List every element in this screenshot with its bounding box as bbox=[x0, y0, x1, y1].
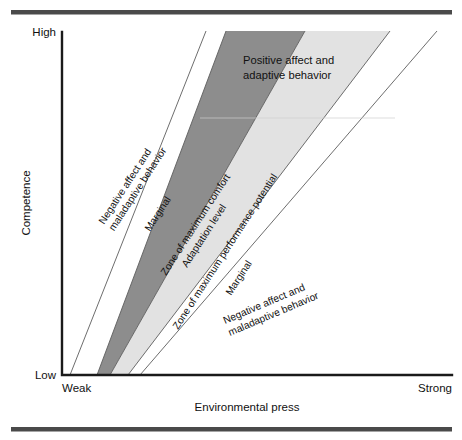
x-axis-weak-label: Weak bbox=[62, 382, 91, 394]
label-positive-affect-line2: adaptive behavior bbox=[243, 69, 332, 81]
bottom-rule bbox=[11, 427, 452, 432]
y-axis-high-label: High bbox=[32, 26, 56, 38]
y-axis-title: Competence bbox=[20, 170, 32, 235]
x-axis-strong-label: Strong bbox=[418, 382, 452, 394]
x-axis-title: Environmental press bbox=[195, 401, 300, 413]
y-axis-low-label: Low bbox=[35, 369, 57, 381]
top-rule bbox=[11, 10, 452, 15]
label-lower-marginal-text: Marginal bbox=[223, 258, 254, 297]
figure-container: High Low Competence Weak Strong Environm… bbox=[0, 0, 462, 440]
label-lower-marginal: Marginal bbox=[223, 258, 254, 297]
press-competence-diagram: High Low Competence Weak Strong Environm… bbox=[0, 0, 462, 440]
label-positive-affect-line1: Positive affect and bbox=[243, 54, 334, 66]
